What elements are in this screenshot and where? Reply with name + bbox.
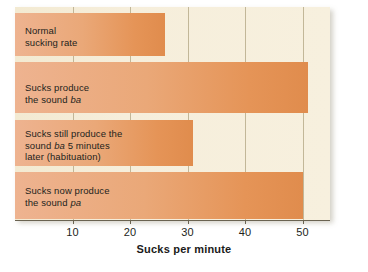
tick-mark-10 <box>73 220 74 224</box>
tick-label-10: 10 <box>53 226 93 238</box>
bar-4 <box>15 172 303 219</box>
bar-chart-figure: Normalsucking rateSucks producethe sound… <box>0 0 368 272</box>
x-axis-line <box>15 220 330 221</box>
tick-mark-20 <box>130 220 131 224</box>
tick-label-30: 30 <box>168 226 208 238</box>
bar-1 <box>15 13 165 56</box>
tick-label-50: 50 <box>283 226 323 238</box>
gridline-50 <box>303 7 304 220</box>
bar-2 <box>15 62 308 113</box>
bar-3 <box>15 120 193 166</box>
tick-mark-30 <box>188 220 189 224</box>
tick-label-40: 40 <box>225 226 265 238</box>
tick-mark-40 <box>245 220 246 224</box>
tick-label-20: 20 <box>110 226 150 238</box>
plot-area: Normalsucking rateSucks producethe sound… <box>15 7 330 220</box>
tick-mark-50 <box>303 220 304 224</box>
x-axis-title: Sucks per minute <box>0 243 368 255</box>
